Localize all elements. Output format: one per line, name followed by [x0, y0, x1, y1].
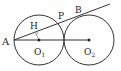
tangent-line-ab [14, 4, 110, 40]
point-o2 [88, 39, 91, 42]
label-h: H [30, 21, 38, 31]
point-o1 [38, 39, 41, 42]
label-p: P [58, 11, 64, 21]
geometry-diagram: A H P B O1 O2 [0, 0, 121, 71]
label-b: B [75, 5, 82, 15]
label-o2: O2 [84, 47, 95, 58]
label-o1: O1 [34, 47, 45, 58]
label-a: A [1, 36, 10, 47]
